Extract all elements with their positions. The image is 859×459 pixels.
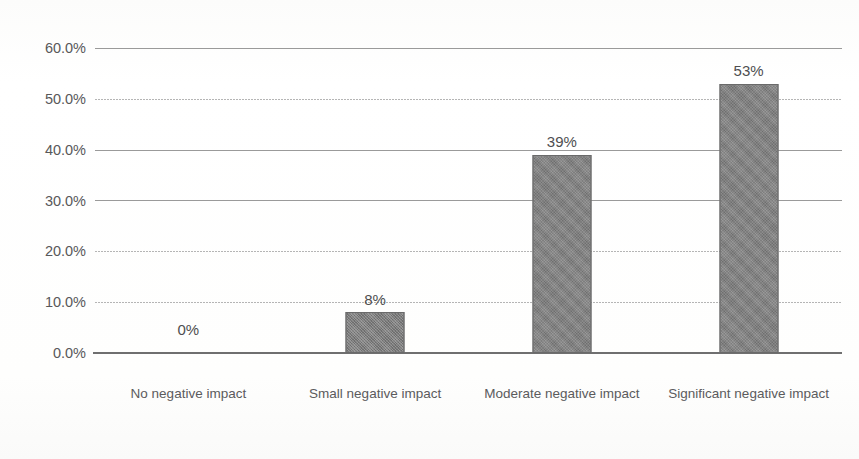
- y-tick-label-0: 0.0%: [12, 345, 86, 361]
- bar-slot-no-negative-impact: 0%: [95, 48, 282, 353]
- y-tick-label-30: 30.0%: [12, 193, 86, 209]
- x-category-label-significant-negative-impact: Significant negative impact: [655, 384, 842, 403]
- x-category-label-moderate-negative-impact: Moderate negative impact: [469, 384, 656, 403]
- bar-chart: 60.0% 50.0% 40.0% 30.0% 20.0% 10.0% 0.0%…: [0, 0, 859, 459]
- bar-series: 0% 8% 39% 53%: [95, 48, 842, 353]
- bar-moderate-negative-impact[interactable]: [532, 155, 591, 353]
- bar-label-significant-negative-impact: 53%: [734, 62, 764, 79]
- bar-label-small-negative-impact: 8%: [364, 291, 386, 308]
- y-tick-label-60: 60.0%: [12, 40, 86, 56]
- x-axis: No negative impact Small negative impact…: [95, 362, 842, 440]
- y-tick-label-10: 10.0%: [12, 294, 86, 310]
- bar-small-negative-impact[interactable]: [346, 312, 405, 353]
- bar-label-no-negative-impact: 0%: [178, 321, 200, 338]
- bar-label-moderate-negative-impact: 39%: [547, 133, 577, 150]
- bar-slot-significant-negative-impact: 53%: [655, 48, 842, 353]
- chart-title-cropped: [0, 0, 859, 9]
- x-category-label-no-negative-impact: No negative impact: [95, 384, 282, 403]
- y-tick-label-20: 20.0%: [12, 243, 86, 259]
- x-category-label-small-negative-impact: Small negative impact: [282, 384, 469, 403]
- bar-slot-moderate-negative-impact: 39%: [469, 48, 656, 353]
- y-tick-label-40: 40.0%: [12, 142, 86, 158]
- plot-area: 0% 8% 39% 53%: [95, 48, 842, 353]
- bar-slot-small-negative-impact: 8%: [282, 48, 469, 353]
- y-tick-label-50: 50.0%: [12, 91, 86, 107]
- bar-significant-negative-impact[interactable]: [719, 84, 778, 353]
- y-axis: 60.0% 50.0% 40.0% 30.0% 20.0% 10.0% 0.0%: [6, 48, 86, 353]
